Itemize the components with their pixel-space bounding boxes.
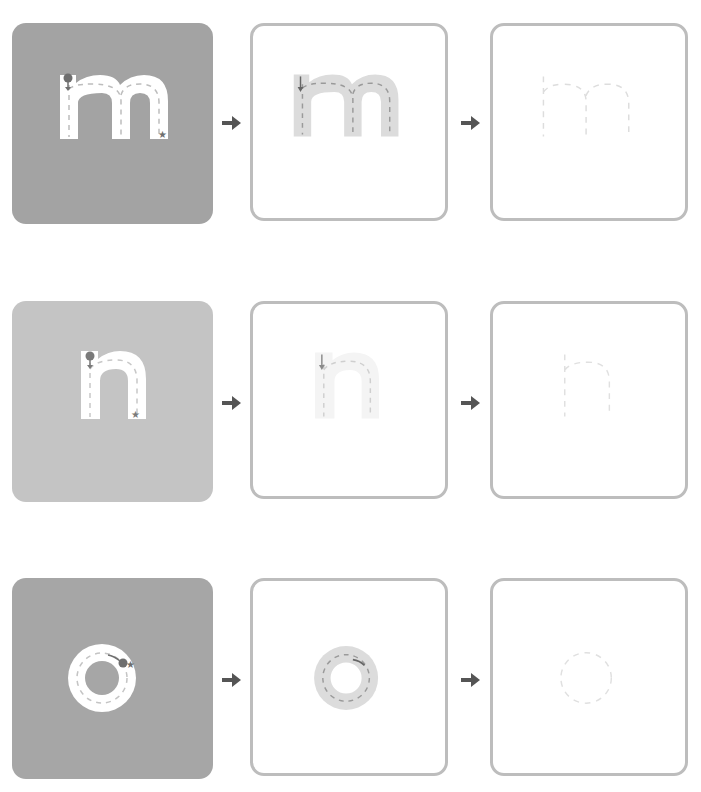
letter-n-model: ★	[12, 301, 213, 502]
letter-m-faint	[493, 26, 685, 218]
next-arrow-icon	[220, 395, 244, 411]
letter-o-model: ★	[12, 578, 213, 779]
guided-trace-card-n	[250, 301, 448, 499]
guided-trace-card-o	[250, 578, 448, 776]
row-letter-m: ★	[0, 23, 701, 225]
row-letter-o: ★	[0, 578, 701, 780]
letter-o-faint	[493, 581, 685, 773]
next-arrow-icon	[220, 115, 244, 131]
next-arrow-icon	[459, 115, 483, 131]
star-icon: ★	[131, 409, 140, 420]
letter-m-model: ★	[12, 23, 213, 224]
faint-trace-card-m	[490, 23, 688, 221]
letter-n-guided	[253, 304, 445, 496]
letter-m-guided	[253, 26, 445, 218]
letter-o-guided	[253, 581, 445, 773]
model-card-m: ★	[12, 23, 213, 224]
letter-n-faint	[493, 304, 685, 496]
model-card-n: ★	[12, 301, 213, 502]
faint-trace-card-n	[490, 301, 688, 499]
model-card-o: ★	[12, 578, 213, 779]
next-arrow-icon	[220, 672, 244, 688]
row-letter-n: ★	[0, 301, 701, 503]
next-arrow-icon	[459, 672, 483, 688]
faint-trace-card-o	[490, 578, 688, 776]
star-icon: ★	[126, 659, 135, 670]
guided-trace-card-m	[250, 23, 448, 221]
next-arrow-icon	[459, 395, 483, 411]
star-icon: ★	[158, 129, 167, 140]
